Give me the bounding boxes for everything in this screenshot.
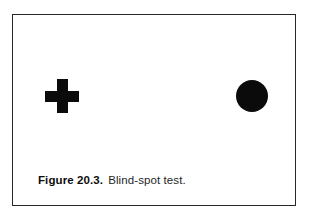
figure-caption: Figure 20.3.Blind-spot test. (38, 173, 283, 187)
cross-mark-icon (45, 79, 79, 113)
cross-vertical-bar (57, 79, 69, 113)
figure-panel: Figure 20.3.Blind-spot test. (12, 14, 296, 206)
figure-root: Figure 20.3.Blind-spot test. (0, 0, 310, 219)
dot-mark-icon (236, 80, 268, 112)
figure-caption-label: Figure 20.3. (38, 174, 103, 186)
figure-caption-text: Blind-spot test. (108, 174, 186, 186)
stimulus-area (13, 15, 295, 155)
